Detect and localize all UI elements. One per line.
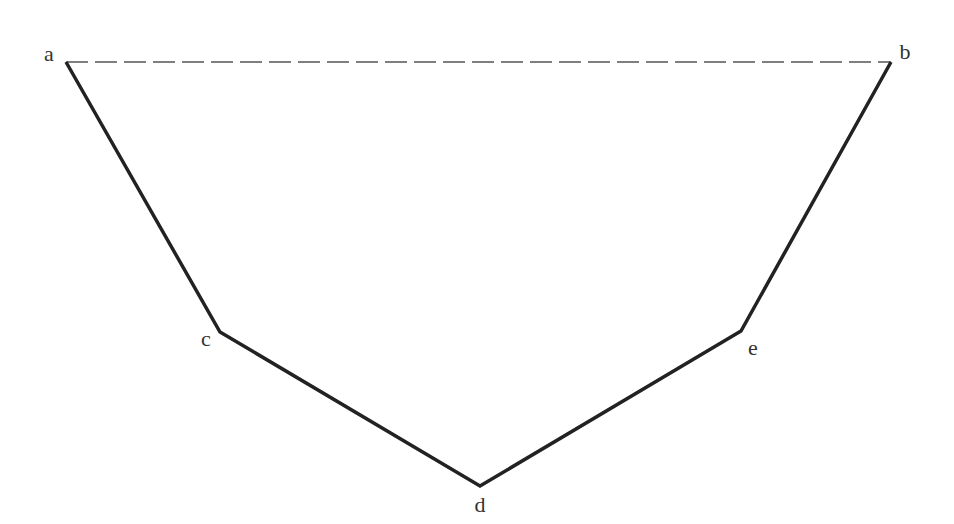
point-label-b: b [900,39,911,64]
profile-diagram: a b c d e [0,0,954,524]
point-label-d: d [475,492,486,517]
profile-polyline-a-c-d-e-b [66,62,891,486]
point-label-c: c [201,326,211,351]
point-label-a: a [44,41,54,66]
point-label-e: e [748,335,758,360]
